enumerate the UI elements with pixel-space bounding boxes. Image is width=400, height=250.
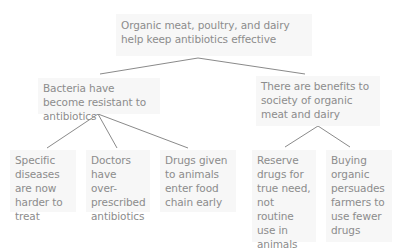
reason-1-text: Bacteria have become resistant to antibi…: [43, 82, 146, 122]
connector-reason-1-to-support-3: [98, 114, 188, 148]
connector-root-to-reason-1: [100, 58, 198, 74]
reason-2-text: There are benefits to society of organic…: [261, 80, 369, 120]
root-claim-box: Organic meat, poultry, and dairy help ke…: [116, 14, 312, 56]
connector-reason-2-to-support-1: [285, 126, 318, 147]
support-box-2-1: Reserve drugs for true need, not routine…: [252, 150, 316, 242]
reason-box-2: There are benefits to society of organic…: [256, 76, 380, 126]
connector-reason-1-to-support-2: [98, 114, 117, 148]
support-box-1-1: Specific diseases are now harder to trea…: [10, 150, 76, 212]
support-box-1-3: Drugs given to animals enter food chain …: [160, 150, 236, 212]
support-1-2-text: Doctors have over-prescribed antibiotics: [91, 154, 145, 222]
root-claim-text: Organic meat, poultry, and dairy help ke…: [121, 19, 290, 45]
support-2-1-text: Reserve drugs for true need, not routine…: [257, 154, 310, 250]
reason-box-1: Bacteria have become resistant to antibi…: [38, 78, 160, 114]
connector-reason-2-to-support-2: [318, 126, 350, 147]
support-2-2-text: Buying organic persuades farmers to use …: [331, 154, 385, 236]
support-box-2-2: Buying organic persuades farmers to use …: [326, 150, 392, 242]
connector-root-to-reason-2: [198, 58, 305, 74]
support-1-1-text: Specific diseases are now harder to trea…: [15, 154, 63, 222]
support-box-1-2: Doctors have over-prescribed antibiotics: [86, 150, 150, 212]
support-1-3-text: Drugs given to animals enter food chain …: [165, 154, 227, 208]
